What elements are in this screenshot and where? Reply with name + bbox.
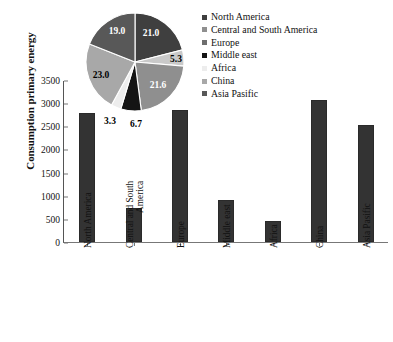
pie-slice-label: 5.3 (170, 54, 182, 64)
y-tick-label: 3000 (41, 99, 60, 109)
legend-item[interactable]: Africa (202, 62, 352, 74)
legend-swatch-icon (202, 91, 207, 96)
x-tick-label: China (315, 226, 325, 248)
legend-swatch-icon (202, 53, 207, 58)
bar-slot: Asia Pasific (343, 81, 389, 242)
y-tick-label: 500 (46, 215, 60, 225)
legend-item[interactable]: Europe (202, 37, 352, 49)
y-tick-label: 0 (55, 238, 60, 248)
x-tick-label: Central and SouthAmerica (125, 181, 145, 248)
legend-swatch-icon (202, 15, 207, 20)
bar-slot: China (296, 81, 342, 242)
pie-slice-label: 21.6 (150, 80, 167, 90)
legend-swatch-icon (202, 27, 207, 32)
legend-item-label: China (211, 75, 234, 87)
x-tick-label: Asia Pasific (362, 203, 372, 248)
chart-figure: Consumption primary energy 0500100015002… (0, 0, 393, 342)
legend-item-label: Middle east (211, 49, 257, 61)
legend-item-label: Central and South America (211, 24, 317, 36)
pie-slice-label: 6.7 (130, 119, 142, 129)
y-tick-label: 3500 (41, 76, 60, 86)
legend-item[interactable]: North America (202, 11, 352, 23)
y-tick-label: 1500 (41, 169, 60, 179)
x-tick-label: Africa (269, 224, 279, 248)
bar-slot: Middle east (203, 81, 249, 242)
y-tick-label: 1000 (41, 192, 60, 202)
pie-slice-label: 19.0 (109, 26, 126, 36)
legend-item[interactable]: Central and South America (202, 24, 352, 36)
legend-item[interactable]: China (202, 75, 352, 87)
y-tick-mark (64, 243, 68, 244)
pie-slice-label: 21.0 (143, 28, 160, 38)
bar-slot: Africa (250, 81, 296, 242)
x-tick-label: Europe (176, 221, 186, 248)
y-axis-title: Consumption primary energy (21, 11, 39, 191)
legend-swatch-icon (202, 79, 207, 84)
legend: North AmericaCentral and South AmericaEu… (202, 11, 352, 100)
bar[interactable] (311, 100, 327, 242)
x-tick-label: Middle east (222, 204, 232, 248)
legend-item[interactable]: Asia Pasific (202, 88, 352, 100)
pie-slice-label: 23.0 (93, 70, 110, 80)
legend-item-label: Europe (211, 37, 239, 49)
legend-swatch-icon (202, 40, 207, 45)
legend-item-label: Africa (211, 62, 236, 74)
legend-item[interactable]: Middle east (202, 49, 352, 61)
pie-slice-label: 3.3 (104, 116, 116, 126)
y-tick-label: 2000 (41, 145, 60, 155)
legend-item-label: Asia Pasific (211, 88, 258, 100)
legend-swatch-icon (202, 66, 207, 71)
y-tick-label: 2500 (41, 122, 60, 132)
legend-item-label: North America (211, 11, 270, 23)
x-tick-label: North America (83, 192, 93, 248)
